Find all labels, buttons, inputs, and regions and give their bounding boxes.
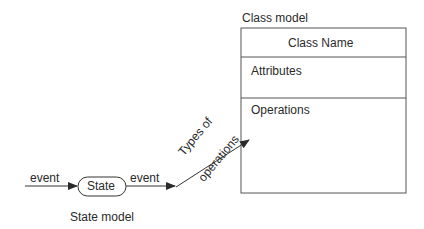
state-label: State xyxy=(87,180,115,192)
attributes-label: Attributes xyxy=(251,65,302,77)
state-model-title: State model xyxy=(70,211,134,223)
class-model-title: Class model xyxy=(242,12,308,24)
class-name-label: Class Name xyxy=(288,37,353,49)
event-out-label: event xyxy=(130,172,159,184)
diagram-canvas xyxy=(0,0,424,229)
event-in-label: event xyxy=(30,172,59,184)
operations-label: Operations xyxy=(251,104,310,116)
